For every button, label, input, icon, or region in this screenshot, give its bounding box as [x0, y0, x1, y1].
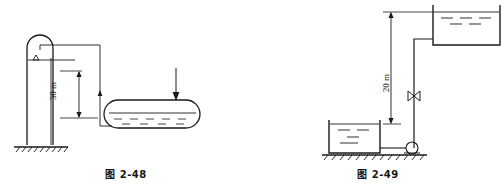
ground-hatching	[324, 155, 424, 160]
dimension-arrow-up-icon	[388, 12, 393, 18]
pipe-flow-arrow-icon	[98, 90, 103, 96]
dimension-arrow-down-icon	[76, 112, 81, 118]
figure-page: 30 m 图 2-48	[0, 0, 504, 193]
dimension-arrow-up-icon	[76, 71, 81, 77]
tank-liquid-dashes	[114, 119, 186, 124]
dimension-label-20m: 20 m	[381, 74, 391, 92]
pump-icon	[406, 142, 418, 154]
horizontal-tank	[104, 100, 200, 128]
dimension-arrow-down-icon	[388, 118, 393, 124]
upper-tank-liquid-dashes	[441, 18, 491, 24]
upper-tank	[433, 5, 500, 45]
water-level-triangle-icon	[33, 55, 39, 60]
figure-2-48: 30 m 图 2-48	[0, 0, 252, 193]
figure-caption-2-48: 图 2-48	[0, 166, 252, 181]
figure-2-49: 20 m 图 2-49	[252, 0, 504, 193]
figure-caption-2-49: 图 2-49	[252, 166, 504, 181]
lower-tank	[329, 120, 380, 153]
dimension-label-30m: 30 m	[48, 82, 58, 100]
figure-2-49-drawing	[252, 0, 504, 193]
lower-tank-liquid-dashes	[338, 130, 369, 143]
ground-hatching	[16, 147, 68, 152]
figure-2-48-drawing	[0, 0, 252, 193]
